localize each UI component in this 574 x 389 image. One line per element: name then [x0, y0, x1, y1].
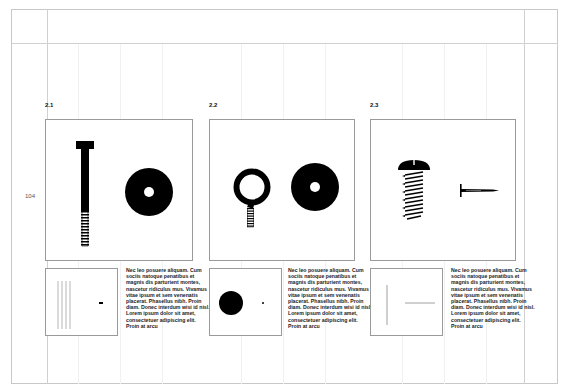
figure-thumbnail-box [209, 268, 282, 336]
screw-and-nail-illustration [371, 120, 517, 262]
figure-label: 2.1 [45, 102, 53, 108]
figure-thumbnail-box [45, 268, 118, 336]
line-sketch-thumbnail [46, 269, 119, 337]
figure-caption: Nec leo posuere aliquam. Cum sociis nato… [451, 267, 535, 329]
figure-label: 2.2 [209, 102, 217, 108]
figure-caption: Nec leo posuere aliquam. Cum sociis nato… [126, 267, 210, 329]
filled-circle [219, 291, 243, 315]
washer-icon [291, 163, 339, 211]
figure-label: 2.3 [370, 102, 378, 108]
figure-thumbnail-box [370, 268, 443, 336]
figure-image-box [45, 119, 193, 261]
hex-bolt-icon [76, 141, 94, 246]
figure-image-box [370, 119, 516, 261]
line-sketch-thumbnail [371, 269, 444, 337]
eye-bolt-icon [237, 172, 268, 228]
small-dot [262, 302, 264, 304]
page-number: 104 [25, 193, 35, 199]
figure-image-box [209, 119, 355, 261]
eyebolt-and-washer-illustration [210, 120, 356, 262]
figure-caption: Nec leo posuere aliquam. Cum sociis nato… [288, 267, 372, 329]
nail-icon [460, 184, 499, 197]
bolt-and-washer-illustration [46, 120, 194, 262]
round-head-screw-icon [398, 159, 430, 219]
dash-mark [99, 302, 103, 304]
washer-icon [125, 168, 173, 216]
margin-guide-top [11, 43, 558, 44]
dot-sketch-thumbnail [210, 269, 283, 337]
